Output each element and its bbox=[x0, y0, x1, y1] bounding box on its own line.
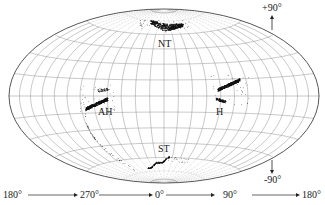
south-pole-label: -90° bbox=[264, 175, 281, 185]
lon-label-90: 90° bbox=[223, 190, 237, 200]
lon-label-180-right: 180° bbox=[302, 190, 321, 200]
cluster-label-h: H bbox=[216, 107, 223, 117]
longitude-axis-arrows bbox=[28, 193, 300, 197]
graticule bbox=[9, 9, 319, 183]
cluster-label-ah: AH bbox=[98, 107, 112, 117]
cluster-label-nt: NT bbox=[158, 39, 171, 49]
south-arrow-icon bbox=[270, 160, 274, 174]
north-arrow-icon bbox=[270, 15, 274, 30]
lon-label-270: 270° bbox=[80, 190, 99, 200]
lon-label-180-left: 180° bbox=[3, 190, 22, 200]
north-pole-label: +90° bbox=[262, 3, 282, 13]
lon-label-0: 0° bbox=[155, 190, 164, 200]
cluster-label-st: ST bbox=[158, 144, 170, 154]
